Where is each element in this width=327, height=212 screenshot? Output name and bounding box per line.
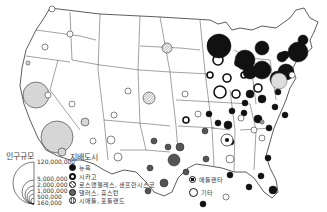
city-marker-other	[251, 127, 257, 133]
city-marker-chicago	[232, 90, 240, 98]
city-marker-other	[45, 92, 51, 98]
chicago-swatch-icon	[69, 173, 76, 180]
legend-seattle-portland: 시애틀, 포틀랜드	[69, 196, 125, 205]
size-legend-circles	[13, 162, 34, 204]
city-marker-new-york	[229, 108, 235, 114]
city-marker-la-sf	[41, 121, 73, 153]
city-marker-new-york	[281, 51, 289, 59]
city-marker-other	[90, 138, 96, 144]
dominant-legend-title: 지배도시	[70, 151, 98, 162]
city-marker-other	[42, 44, 48, 50]
city-marker-new-york	[242, 100, 248, 106]
city-marker-other	[125, 88, 131, 94]
city-marker-new-york	[282, 112, 288, 118]
us-outline	[20, 8, 318, 198]
city-marker-seattle-portland	[143, 92, 155, 104]
city-marker-new-york	[207, 34, 231, 58]
city-marker-new-york	[215, 120, 221, 126]
city-marker-dallas-houston	[203, 156, 209, 162]
seattle-portland-swatch-icon	[69, 197, 76, 204]
city-marker-other	[259, 135, 265, 141]
city-marker-other	[114, 153, 122, 161]
city-marker-new-york	[275, 89, 281, 95]
city-marker-other	[223, 194, 229, 200]
city-marker-chicago	[223, 74, 231, 82]
city-marker-la-sf	[58, 148, 66, 156]
city-marker-new-york	[246, 90, 254, 98]
city-marker-other	[238, 115, 244, 121]
city-marker-dallas-houston	[168, 154, 180, 166]
city-marker-chicago	[207, 72, 213, 78]
atlanta-swatch-icon	[189, 176, 196, 183]
city-marker-chicago	[214, 86, 226, 98]
new-york-swatch-icon	[69, 164, 76, 171]
atlanta-center-dot-icon	[261, 121, 263, 123]
legend-new-york: 뉴욕	[69, 163, 91, 172]
city-marker-new-york	[288, 42, 308, 62]
atlanta-center-dot-icon	[225, 138, 229, 142]
city-marker-seattle-portland	[162, 43, 172, 53]
dallas-houston-swatch-icon	[69, 189, 76, 196]
legend-other: 기타	[189, 188, 213, 197]
city-marker-la-sf-light	[271, 73, 287, 89]
city-marker-other	[226, 155, 234, 163]
city-marker-chicago	[254, 84, 262, 92]
city-marker-dallas-houston	[151, 138, 157, 144]
city-marker-new-york	[258, 95, 266, 103]
city-marker-other	[69, 101, 75, 107]
city-marker-dallas-houston	[165, 144, 171, 150]
city-marker-new-york	[269, 186, 277, 194]
city-marker-new-york	[227, 172, 233, 178]
city-marker-new-york	[224, 121, 232, 129]
city-marker-seattle-portland	[26, 61, 30, 65]
city-marker-new-york	[265, 155, 271, 161]
city-marker-new-york	[258, 173, 264, 179]
city-marker-new-york	[298, 35, 308, 45]
legend-atlanta: 애틀랜타	[189, 175, 223, 184]
city-marker-other	[67, 31, 73, 37]
city-marker-new-york	[206, 111, 212, 117]
city-marker-other	[111, 112, 117, 118]
city-marker-la-sf	[81, 118, 89, 126]
city-marker-dallas-houston	[160, 179, 168, 187]
city-marker-new-york	[266, 125, 272, 131]
city-marker-other	[289, 72, 295, 78]
size-value-6: 160,000	[37, 200, 62, 206]
city-marker-new-york	[243, 65, 257, 79]
city-marker-dallas-houston	[202, 128, 208, 134]
city-marker-new-york	[272, 104, 278, 110]
city-marker-new-york	[246, 184, 252, 190]
city-marker-chicago	[183, 117, 189, 123]
city-marker-other	[182, 91, 188, 97]
city-marker-new-york	[200, 201, 206, 207]
city-marker-other	[107, 136, 115, 144]
la-sf-swatch-icon	[69, 181, 76, 188]
city-marker-dallas-houston	[147, 165, 153, 171]
size-legend-title: 인구규모	[6, 150, 34, 161]
other-swatch-icon	[189, 188, 198, 197]
city-marker-other	[195, 111, 201, 117]
city-marker-other	[49, 6, 55, 12]
city-marker-dallas-houston	[176, 143, 184, 151]
city-marker-new-york	[255, 41, 269, 55]
